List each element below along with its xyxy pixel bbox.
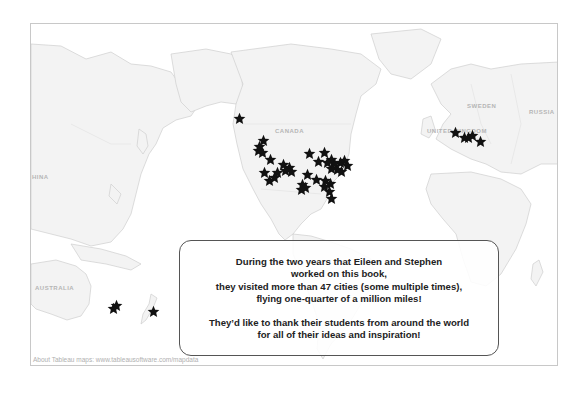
star-icon [474,135,487,148]
star-icon [279,164,292,177]
city-star-marker[interactable] [264,153,277,166]
star-icon [110,299,123,312]
note-line-6: for all of their ideas and inspiration! [180,329,498,341]
world-map[interactable]: CANADA HINA AUSTRALIA UNITED KINGDOM SWE… [30,23,558,366]
city-star-marker[interactable] [474,135,487,148]
city-star-marker[interactable] [325,192,338,205]
star-icon [321,156,334,169]
city-star-marker[interactable] [279,164,292,177]
note-line-3: they visited more than 47 cities (some m… [180,281,498,293]
country-label-russia: RUSSIA [529,109,555,115]
map-attribution[interactable]: About Tableau maps: www.tableausoftware.… [33,356,198,363]
country-label-china: HINA [32,174,49,180]
city-star-marker[interactable] [147,305,160,318]
star-icon [147,305,160,318]
star-icon [264,153,277,166]
star-icon [341,159,354,172]
city-star-marker[interactable] [295,183,308,196]
note-line-4: flying one-quarter of a million miles! [180,293,498,305]
city-star-marker[interactable] [341,159,354,172]
note-line-5: They’d like to thank their students from… [180,317,498,329]
note-line-1: During the two years that Eileen and Ste… [180,256,498,268]
star-icon [233,112,246,125]
city-star-marker[interactable] [321,156,334,169]
note-spacer [180,305,498,317]
annotation-box: During the two years that Eileen and Ste… [179,240,499,356]
country-label-sweden: SWEDEN [467,103,496,109]
star-icon [325,192,338,205]
country-label-australia: AUSTRALIA [35,285,74,291]
city-star-marker[interactable] [233,112,246,125]
city-star-marker[interactable] [110,299,123,312]
country-label-canada: CANADA [275,128,304,134]
star-icon [295,183,308,196]
note-line-2: worked on this book, [180,268,498,280]
